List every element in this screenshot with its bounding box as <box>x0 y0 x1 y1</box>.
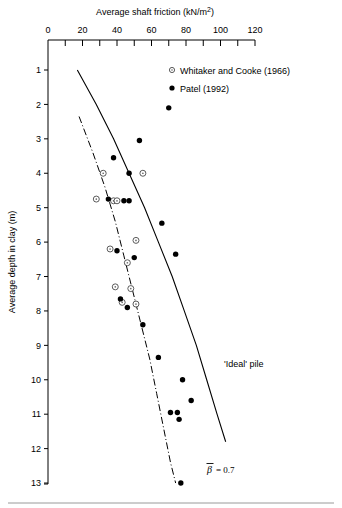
data-point-patel <box>126 198 131 203</box>
data-point-patel <box>114 248 119 253</box>
data-point-whitaker-cooke-center <box>116 200 118 202</box>
data-point-whitaker-cooke-center <box>95 198 97 200</box>
annotations: 'Ideal' pile β = 0.7 <box>206 359 263 475</box>
data-point-patel <box>132 255 137 260</box>
ideal-pile-curve <box>77 70 225 442</box>
axes-lines <box>44 40 255 484</box>
data-point-patel <box>188 398 193 403</box>
x-tick-label: 60 <box>146 25 156 35</box>
y-tick-label: 3 <box>36 134 41 144</box>
data-point-whitaker-cooke-center <box>135 240 137 242</box>
y-tick-label: 11 <box>32 409 41 419</box>
beta-annotation: β = 0.7 <box>206 464 235 476</box>
x-tick-label: 20 <box>77 25 87 35</box>
y-axis-ticks <box>44 70 48 483</box>
x-axis-title-text: Average shaft friction (kN/m <box>96 7 207 17</box>
data-point-whitaker-cooke-center <box>109 248 111 250</box>
data-point-patel <box>118 296 123 301</box>
data-point-patel <box>156 355 161 360</box>
x-axis-ticks <box>65 40 255 46</box>
legend: Whitaker and Cooke (1966) Patel (1992) <box>169 66 290 94</box>
data-point-whitaker-cooke-center <box>102 172 104 174</box>
legend-label-whitaker-cooke: Whitaker and Cooke (1966) <box>180 66 290 76</box>
svg-text:Average shaft friction (kN/m2): Average shaft friction (kN/m2) <box>96 6 214 17</box>
data-point-patel <box>176 417 181 422</box>
data-point-patel <box>111 155 116 160</box>
y-tick-label: 12 <box>31 444 41 454</box>
y-tick-label: 5 <box>36 203 41 213</box>
x-tick-label: 40 <box>112 25 122 35</box>
y-axis-title-text: Average depth in clay (m) <box>7 211 17 313</box>
beta-value: = 0.7 <box>216 465 235 475</box>
trend-curves <box>77 70 225 483</box>
figure-container: Average shaft friction (kN/m2) 020406080… <box>0 0 342 508</box>
x-tick-label: 120 <box>247 25 262 35</box>
data-point-patel <box>180 377 185 382</box>
y-tick-labels: 12345678910111213 <box>31 65 41 488</box>
data-point-whitaker-cooke-center <box>135 303 137 305</box>
x-tick-labels: 020406080100120 <box>45 25 262 35</box>
y-tick-label: 13 <box>31 478 41 488</box>
data-point-patel <box>137 138 142 143</box>
y-tick-label: 6 <box>36 237 41 247</box>
data-point-patel <box>126 171 131 176</box>
data-point-whitaker-cooke-center <box>127 262 129 264</box>
x-tick-label: 0 <box>45 25 50 35</box>
data-point-patel <box>106 196 111 201</box>
data-point-patel <box>125 305 130 310</box>
x-axis-title: Average shaft friction (kN/m2) <box>96 6 214 17</box>
ideal-pile-annotation: 'Ideal' pile <box>224 359 263 369</box>
y-axis-title: Average depth in clay (m) <box>7 211 17 313</box>
data-point-patel <box>175 410 180 415</box>
y-tick-label: 8 <box>36 306 41 316</box>
y-tick-label: 4 <box>36 168 41 178</box>
data-point-patel <box>159 220 164 225</box>
data-point-whitaker-cooke-center <box>121 301 123 303</box>
data-point-patel <box>178 480 183 485</box>
y-tick-label: 7 <box>36 272 41 282</box>
data-point-patel <box>166 105 171 110</box>
data-point-whitaker-cooke-center <box>142 172 144 174</box>
y-tick-label: 1 <box>36 65 41 75</box>
data-point-whitaker-cooke-center <box>130 288 132 290</box>
data-point-patel <box>173 251 178 256</box>
y-tick-label: 10 <box>31 375 41 385</box>
x-tick-label: 100 <box>213 25 228 35</box>
y-tick-label: 9 <box>36 341 41 351</box>
legend-marker-open-circle-center <box>171 69 173 71</box>
data-point-patel <box>121 198 126 203</box>
beta-symbol: β <box>206 464 212 475</box>
x-tick-label: 80 <box>181 25 191 35</box>
x-axis-title-close: ) <box>211 7 214 17</box>
shaft-friction-depth-chart: Average shaft friction (kN/m2) 020406080… <box>0 0 342 508</box>
legend-marker-filled-circle <box>169 85 174 90</box>
y-tick-label: 2 <box>36 100 41 110</box>
data-point-patel <box>140 322 145 327</box>
data-point-patel <box>168 410 173 415</box>
legend-label-patel: Patel (1992) <box>180 84 229 94</box>
data-point-whitaker-cooke-center <box>114 286 116 288</box>
